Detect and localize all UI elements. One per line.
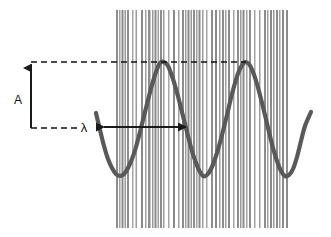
barcode-bar bbox=[188, 10, 190, 228]
barcode-bar bbox=[202, 10, 204, 228]
barcode-bar bbox=[237, 10, 239, 228]
wave-diagram-canvas: A λ bbox=[0, 0, 331, 237]
barcode-bar bbox=[122, 10, 124, 228]
barcode-bar bbox=[243, 10, 245, 228]
barcode-bar bbox=[160, 10, 162, 228]
barcode-bar bbox=[193, 10, 195, 228]
barcode-bar bbox=[158, 10, 160, 228]
barcode-bar bbox=[152, 10, 154, 228]
barcode-bar bbox=[249, 10, 251, 228]
barcode-bar bbox=[173, 10, 175, 228]
barcode-bar bbox=[178, 10, 180, 228]
barcode-bar bbox=[273, 10, 275, 228]
barcode-bar bbox=[276, 10, 278, 228]
figure-background bbox=[0, 0, 331, 237]
barcode-bar bbox=[132, 10, 134, 228]
barcode-bar bbox=[163, 10, 165, 228]
amplitude-label: A bbox=[14, 93, 22, 107]
barcode-bar bbox=[282, 10, 284, 228]
barcode-bar bbox=[168, 10, 170, 228]
barcode-bar bbox=[219, 10, 221, 228]
barcode-bar bbox=[211, 10, 213, 228]
barcode-bar bbox=[215, 10, 217, 228]
barcode-bar bbox=[196, 10, 198, 228]
barcode-bar bbox=[246, 10, 248, 228]
barcode-bar bbox=[199, 10, 201, 228]
barcode-bar bbox=[222, 10, 224, 228]
barcode-bar bbox=[136, 10, 138, 228]
barcode-bar bbox=[125, 10, 127, 228]
wave-diagram-figure: A λ bbox=[0, 0, 331, 237]
barcode-bar bbox=[155, 10, 157, 228]
barcode-bar bbox=[148, 10, 151, 228]
barcode-bar bbox=[233, 10, 235, 228]
wavelength-label: λ bbox=[81, 120, 88, 135]
barcode-bar bbox=[286, 10, 288, 228]
barcode-bar bbox=[127, 10, 129, 228]
barcode-bar bbox=[191, 10, 193, 228]
barcode-bar bbox=[119, 10, 121, 228]
barcode-bar bbox=[240, 10, 242, 228]
barcode-bar bbox=[259, 10, 261, 228]
barcode-bar bbox=[228, 10, 230, 228]
barcode-bar bbox=[206, 10, 208, 228]
barcode-bar bbox=[279, 10, 281, 228]
barcode-bar bbox=[254, 10, 256, 228]
barcode-bar bbox=[270, 10, 272, 228]
barcode-bar bbox=[116, 10, 118, 228]
